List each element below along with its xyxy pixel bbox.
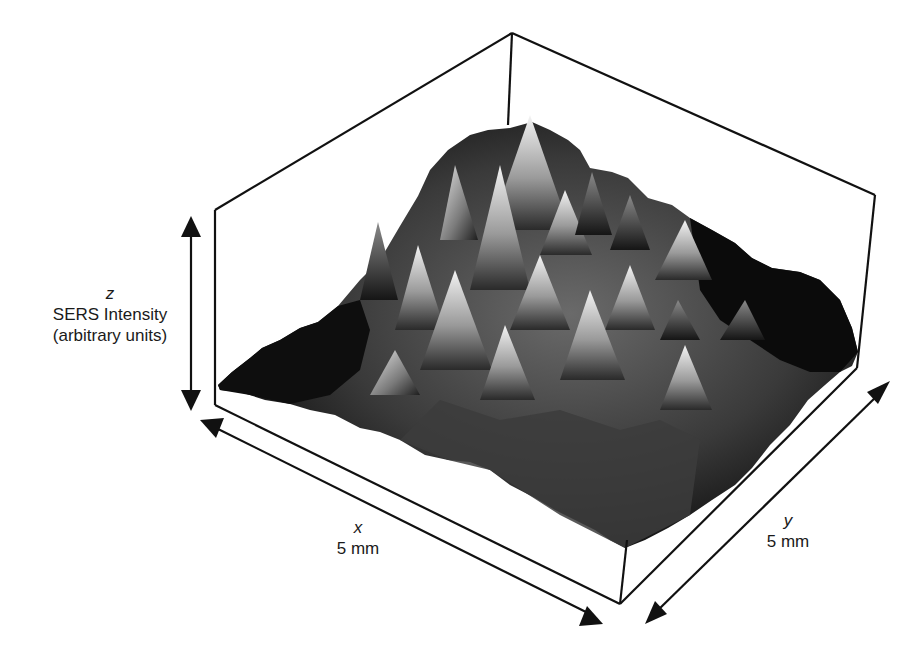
y-variable: y	[748, 510, 828, 531]
y-axis-label: y 5 mm	[748, 510, 828, 552]
y-axis-extent: 5 mm	[748, 531, 828, 552]
sers-surface	[218, 115, 858, 548]
z-axis-title: SERS Intensity	[10, 304, 210, 325]
x-axis-label: x 5 mm	[318, 517, 398, 559]
x-variable: x	[318, 517, 398, 538]
z-variable: z	[10, 283, 210, 304]
z-axis-label: z SERS Intensity (arbitrary units)	[10, 283, 210, 346]
x-axis-extent: 5 mm	[318, 538, 398, 559]
z-axis-unit: (arbitrary units)	[10, 325, 210, 346]
